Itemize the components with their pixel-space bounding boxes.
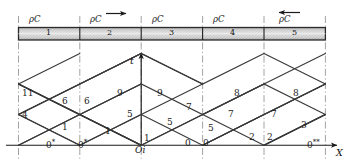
region-number: 4 bbox=[22, 111, 28, 120]
region-number: 0 bbox=[185, 139, 191, 148]
region-number: 5 bbox=[127, 110, 133, 119]
bar-segment-number-1: 1 bbox=[46, 29, 51, 37]
region-number: 8 bbox=[234, 89, 240, 98]
bar-segment-number-2: 2 bbox=[107, 29, 112, 37]
bar-segment-number-5: 5 bbox=[292, 29, 297, 37]
region-number: 1 bbox=[62, 123, 68, 132]
bar-material-label-1: ρC bbox=[29, 15, 41, 24]
boundary-number: 0* bbox=[78, 139, 87, 150]
x-axis-label: X bbox=[336, 148, 343, 158]
region-number: 7 bbox=[228, 110, 234, 119]
region-number: 6 bbox=[62, 97, 68, 106]
region-number: 7 bbox=[271, 110, 277, 119]
bar-material-label-3: ρC bbox=[152, 15, 164, 24]
region-number: 5 bbox=[167, 118, 173, 127]
bar-material-label-5: ρC bbox=[279, 15, 291, 24]
bar-segment-number-3: 3 bbox=[169, 29, 174, 37]
region-number: 8 bbox=[293, 89, 299, 98]
boundary-number: 0* bbox=[46, 139, 55, 150]
t-axis-label: t bbox=[130, 56, 134, 66]
region-number: 2 bbox=[249, 133, 255, 142]
region-number: 2 bbox=[267, 133, 273, 142]
region-number: 7 bbox=[186, 103, 192, 112]
region-number: 3 bbox=[301, 121, 307, 130]
region-number: 9 bbox=[117, 89, 123, 98]
figure-canvas: ρC ρC ρC ρC ρC 1 2 3 4 5 t X Oi 11669988… bbox=[0, 0, 353, 167]
region-number: 6 bbox=[84, 97, 90, 106]
region-number: 0 bbox=[203, 139, 209, 148]
region-number: 5 bbox=[208, 124, 214, 133]
origin-label: Oi bbox=[135, 146, 145, 155]
region-number: 11 bbox=[22, 89, 33, 98]
region-number: 1 bbox=[105, 127, 111, 136]
boundary-number: 0** bbox=[307, 139, 320, 150]
bar-material-label-2: ρC bbox=[90, 15, 102, 24]
region-number: 9 bbox=[157, 89, 163, 98]
bar-material-label-4: ρC bbox=[213, 15, 225, 24]
bar-segment-number-4: 4 bbox=[230, 29, 235, 37]
region-number: 1 bbox=[144, 134, 150, 143]
direction-arrows bbox=[106, 13, 300, 14]
